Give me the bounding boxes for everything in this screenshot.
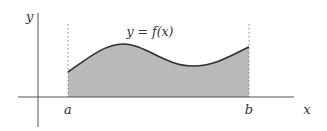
lower-bound-label: a bbox=[64, 102, 72, 117]
area-under-curve-diagram: y y = f(x) a b x bbox=[0, 0, 327, 131]
x-axis-label: x bbox=[303, 102, 311, 117]
y-axis-label: y bbox=[25, 9, 34, 24]
upper-bound-label: b bbox=[245, 102, 253, 117]
shaded-area bbox=[68, 44, 249, 97]
curve-label: y = f(x) bbox=[126, 24, 174, 39]
